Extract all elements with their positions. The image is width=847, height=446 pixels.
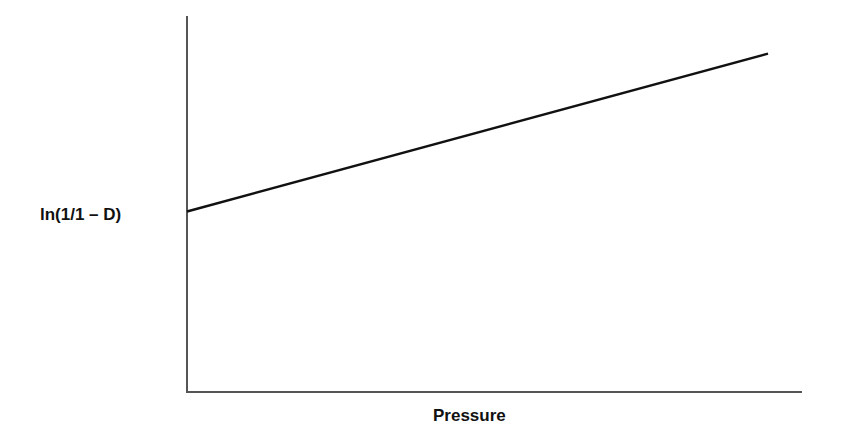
x-axis-label: Pressure bbox=[433, 406, 506, 426]
chart-canvas bbox=[0, 0, 847, 446]
y-axis-label: ln(1/1 – D) bbox=[40, 205, 121, 225]
data-line bbox=[187, 54, 768, 212]
